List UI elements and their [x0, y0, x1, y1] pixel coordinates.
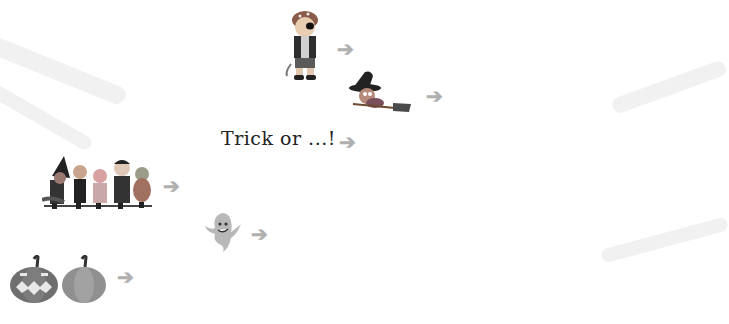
- arrow-icon: ➔: [117, 265, 134, 289]
- background-streak: [610, 59, 728, 115]
- arrow-icon: ➔: [426, 84, 443, 108]
- background-streak: [600, 216, 729, 263]
- clue-3-text: Trick or ...!: [221, 127, 336, 149]
- pirate-costume-icon: [283, 6, 328, 82]
- witch-on-broom-icon: [343, 70, 413, 116]
- arrow-icon: ➔: [163, 174, 180, 198]
- ghost-icon: [203, 212, 243, 254]
- background-streak: [0, 30, 128, 107]
- pumpkins-icon: [4, 255, 108, 305]
- arrow-icon: ➔: [251, 222, 268, 246]
- costumed-kids-icon: [42, 156, 154, 212]
- background-streak: [0, 80, 94, 152]
- arrow-icon: ➔: [337, 37, 354, 61]
- arrow-icon: ➔: [339, 130, 356, 154]
